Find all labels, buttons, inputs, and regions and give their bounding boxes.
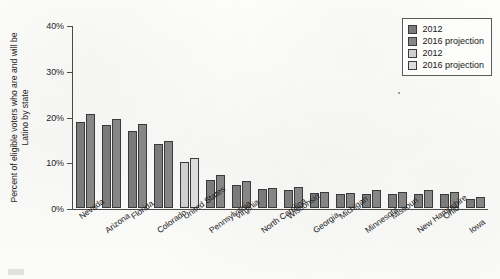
legend-swatch-icon	[408, 49, 417, 58]
y-axis-tick: 40%	[67, 26, 72, 27]
legend-item-label: 2016 projection	[422, 60, 484, 70]
bar	[268, 188, 277, 208]
legend-item-label: 2012	[422, 48, 442, 58]
bar	[320, 192, 329, 208]
y-axis-title: Percent of eligible voters who are and w…	[6, 26, 34, 209]
y-axis-tick: 0%	[67, 209, 72, 210]
bar	[86, 114, 95, 208]
x-axis-tick-label: Arizona	[103, 211, 132, 236]
bar	[154, 144, 163, 208]
y-axis-tick-label: 40%	[46, 21, 64, 31]
y-axis-tick: 20%	[67, 118, 72, 119]
bar	[76, 122, 85, 208]
bar	[372, 190, 381, 208]
page-corner-mark	[8, 269, 24, 275]
legend-item-label: 2012	[422, 24, 442, 34]
bar-group	[76, 114, 95, 208]
bar	[476, 197, 485, 208]
bar-group	[102, 119, 121, 208]
bar	[424, 190, 433, 208]
bar	[128, 131, 137, 208]
y-axis-tick-label: 20%	[46, 113, 64, 123]
bar-group	[154, 141, 173, 208]
bar	[112, 119, 121, 208]
legend-swatch-icon	[408, 37, 417, 46]
y-axis-tick-label: 30%	[46, 67, 64, 77]
x-axis-tick-label: Iowa	[467, 217, 487, 235]
bar	[180, 162, 189, 208]
legend-item: 2012	[408, 47, 484, 59]
bar	[336, 194, 345, 208]
bar	[164, 141, 173, 208]
bar-group	[128, 124, 147, 208]
y-axis-line	[72, 26, 73, 210]
bar	[102, 125, 111, 208]
legend-item: 2016 projection	[408, 59, 484, 71]
legend-item-label: 2016 projection	[422, 36, 484, 46]
latino-eligible-voters-bar-chart: Percent of eligible voters who are and w…	[0, 0, 500, 279]
bar	[138, 124, 147, 208]
y-axis-tick: 10%	[67, 163, 72, 164]
legend-item: 2012	[408, 23, 484, 35]
y-axis-tick: 30%	[67, 72, 72, 73]
y-axis-tick-label: 0%	[51, 204, 64, 214]
legend-swatch-icon	[408, 61, 417, 70]
legend-item: 2016 projection	[408, 35, 484, 47]
y-axis-tick-label: 10%	[46, 158, 64, 168]
x-axis-tick-label: Georgia	[311, 210, 341, 235]
legend-swatch-icon	[408, 25, 417, 34]
chart-legend: 20122016 projection20122016 projection	[402, 18, 492, 76]
bar-group	[466, 197, 485, 208]
